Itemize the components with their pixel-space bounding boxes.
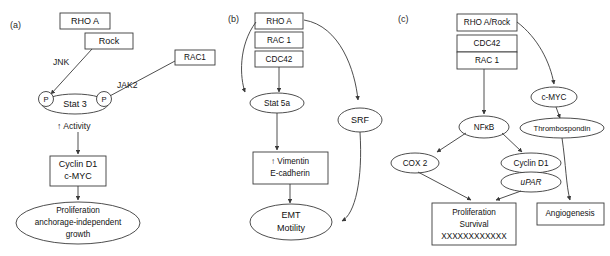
node-outcome-c-line3: XXXXXXXXXXXX <box>441 232 507 241</box>
panel-label-c: (c) <box>398 14 409 24</box>
node-outcome-c-line1: Proliferation <box>452 208 496 217</box>
edge-cox2-to-outcome-c <box>418 172 471 200</box>
edge-thrombospondin-to-angiogenesis <box>562 138 570 200</box>
panel-label-b: (b) <box>228 14 239 24</box>
node-cdc42-c-label: CDC42 <box>474 39 501 48</box>
node-emt-b-label: EMT <box>282 210 302 220</box>
edge-nfkb-to-cox2 <box>437 133 466 152</box>
node-thrombospondin-c-label: Thrombospondin <box>534 124 591 133</box>
node-vimentin-b-label: ↑ Vimentin <box>271 157 310 166</box>
node-angiogenesis-c-label: Angiogenesis <box>545 209 594 218</box>
edge-cmyc-to-thrombospondin <box>556 107 560 118</box>
node-ecadherin-b-label: E-cadherin <box>270 169 310 178</box>
node-cyclind1-c-label: Cyclin D1 <box>513 159 548 168</box>
node-outcome-c-line2: Survival <box>459 220 488 229</box>
node-srf-b-label: SRF <box>351 115 370 125</box>
node-rac1-c-label: RAC 1 <box>475 56 500 65</box>
node-phospho-right-a-label: P <box>101 95 106 104</box>
node-rac1-b-label: RAC 1 <box>267 36 292 45</box>
edge-srf-to-emt <box>342 132 361 221</box>
node-rhoa-b-label: RHO A <box>266 17 292 26</box>
node-cyclind1-a-label: Cyclin D1 <box>59 159 98 169</box>
node-rhoa-a-label: RHO A <box>71 16 99 26</box>
node-nfkb-c-label: NFκB <box>474 123 495 132</box>
node-phospho-left-a-label: P <box>43 95 48 104</box>
node-cdc42-b-label: CDC42 <box>266 55 293 64</box>
node-cmyc-a-label: c-MYC <box>64 171 92 181</box>
node-cox2-c-label: COX 2 <box>403 159 428 168</box>
edge-label-jnk: JNK <box>53 57 70 67</box>
node-stat5a-b-label: Stat 5a <box>264 99 290 108</box>
node-outcome-a-line3: growth <box>66 230 91 239</box>
signaling-pathway-figure: (a) RHO A Rock RAC1 JNK JAK2 Stat 3 P P … <box>0 0 610 256</box>
node-cmyc-c-label: c-MYC <box>541 93 566 102</box>
node-upar-c-label: uPAR <box>521 178 542 187</box>
node-motility-b-label: Motility <box>277 223 306 233</box>
edge-rhoarock-to-cmyc <box>517 22 554 84</box>
edge-rock-to-stat3 <box>51 49 92 94</box>
figure-svg: (a) RHO A Rock RAC1 JNK JAK2 Stat 3 P P … <box>0 0 610 256</box>
node-rhoa-rock-c-label: RHO A/Rock <box>464 18 511 27</box>
node-outcome-a-line2: anchorage-independent <box>35 218 122 227</box>
edge-rhoa-to-stat5a <box>242 22 256 92</box>
edge-nfkb-to-cyclind1 <box>502 133 522 152</box>
node-rac1-a-label: RAC1 <box>184 53 206 62</box>
edge-upar-to-outcome-c <box>496 191 521 200</box>
edge-label-jak2: JAK2 <box>117 80 138 90</box>
edge-rhoa-to-srf <box>304 20 358 100</box>
node-rock-a-label: Rock <box>99 36 120 46</box>
node-stat3-a-label: Stat 3 <box>63 99 87 109</box>
node-activity-a-label: ↑ Activity <box>57 121 91 131</box>
panel-label-a: (a) <box>10 20 21 30</box>
node-outcome-a-line1: Proliferation <box>56 206 100 215</box>
